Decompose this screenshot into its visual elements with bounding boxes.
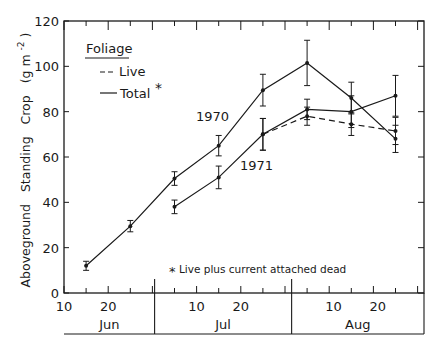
y-tick-label: 120 (34, 14, 59, 29)
y-label-main: Aboveground Standing Crop (18, 95, 33, 287)
data-point (173, 177, 177, 181)
plot-border (64, 21, 424, 293)
data-point (173, 205, 177, 209)
legend-label-live: Live (119, 64, 146, 79)
data-point (394, 129, 398, 133)
data-point (128, 224, 132, 228)
plot-frame (64, 21, 424, 293)
y-axis-label: Aboveground Standing Crop (g m -2 ) (12, 33, 33, 288)
data-point (305, 61, 309, 65)
series-1971-total (172, 75, 399, 213)
data-point (349, 122, 353, 126)
month-label-jun: Jun (98, 317, 119, 332)
x-tick-label: 20 (233, 299, 250, 314)
legend: Foliage Live Total * (85, 41, 162, 101)
y-tick-label: 20 (42, 241, 59, 256)
annotations: 1970 1971 * Live plus current attached d… (169, 109, 346, 279)
month-label-aug: Aug (345, 317, 370, 332)
y-label-unit-close: ) (18, 33, 33, 38)
data-point (305, 114, 309, 118)
x-axis: 102010201020JunJulAug (56, 21, 424, 334)
legend-asterisk: * (155, 80, 162, 96)
y-axis: 020406080100120 (34, 14, 424, 301)
series-1971-live (260, 107, 399, 150)
legend-label-total: Total (119, 86, 150, 101)
data-point (261, 88, 265, 92)
footnote-text: Live plus current attached dead (179, 263, 346, 275)
y-tick-label: 40 (42, 195, 59, 210)
standing-crop-chart: 020406080100120 102010201020JunJulAug Fo… (0, 0, 441, 350)
y-tick-label: 100 (34, 59, 59, 74)
x-tick-label: 10 (56, 299, 73, 314)
y-tick-label: 80 (42, 105, 59, 120)
data-point (217, 144, 221, 148)
x-tick-label: 10 (325, 299, 342, 314)
label-1971: 1971 (240, 158, 273, 173)
data-point (394, 94, 398, 98)
y-label-unit-open: (g m (18, 54, 33, 83)
data-point (217, 175, 221, 179)
legend-title: Foliage (86, 41, 132, 56)
x-tick-label: 10 (188, 299, 205, 314)
y-label-unit-exp: -2 (16, 41, 26, 50)
label-1970: 1970 (196, 109, 229, 124)
data-point (84, 264, 88, 268)
footnote-asterisk: * (169, 264, 176, 279)
y-tick-label: 60 (42, 150, 59, 165)
x-tick-label: 20 (370, 299, 387, 314)
data-point (261, 132, 265, 136)
svg-text:Aboveground Standing Crop: Aboveground Standing Crop (g m -2 ) (12, 33, 33, 288)
month-label-jul: Jul (214, 317, 231, 332)
x-tick-label: 20 (100, 299, 117, 314)
